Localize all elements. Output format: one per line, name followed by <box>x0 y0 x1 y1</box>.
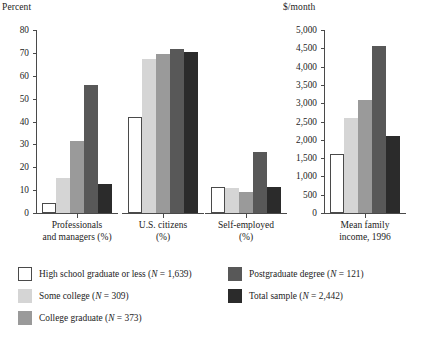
bar-high-school-graduate-or-less <box>128 117 142 213</box>
percent-chart-group-tick <box>246 214 247 218</box>
bar-postgraduate-degree <box>170 49 184 213</box>
legend-swatch-icon <box>228 289 242 303</box>
x-axis-group-label-line: income, 1996 <box>290 232 423 244</box>
bar-total-sample <box>267 187 281 213</box>
bar-total-sample <box>184 52 198 213</box>
legend-label-n-value: = 309) <box>102 291 129 301</box>
percent-chart-group-tick <box>163 214 164 218</box>
bar-total-sample <box>98 184 112 213</box>
percent-chart-panel: Percent 01020304050607080 Professionalsa… <box>0 0 282 258</box>
legend-label-n-value: = 121) <box>336 269 363 279</box>
bar-some-college <box>225 188 239 213</box>
bar-high-school-graduate-or-less <box>42 203 56 213</box>
legend-label-n-value: = 1,639) <box>157 269 191 279</box>
bar-high-school-graduate-or-less <box>211 187 225 213</box>
bar-college-graduate <box>358 100 372 213</box>
bar-total-sample <box>386 136 400 213</box>
legend-swatch-icon <box>18 311 32 325</box>
bar-college-graduate <box>239 192 253 213</box>
legend-label: High school graduate or less (N = 1,639) <box>39 266 192 282</box>
bar-some-college <box>344 118 358 213</box>
legend-label-n-value: = 2,442) <box>309 291 343 301</box>
legend-label-prefix: College graduate ( <box>39 313 108 323</box>
chart-legend: High school graduate or less (N = 1,639)… <box>0 258 423 348</box>
x-axis-group-label: Mean familyincome, 1996 <box>290 220 423 243</box>
legend-label-prefix: High school graduate or less ( <box>39 269 151 279</box>
bar-postgraduate-degree <box>372 46 386 213</box>
income-chart-group-tick <box>365 214 366 218</box>
legend-label: Postgraduate degree (N = 121) <box>249 266 364 282</box>
x-axis-group-label-line: Mean family <box>290 220 423 232</box>
figure-bar-charts: Percent 01020304050607080 Professionalsa… <box>0 0 423 348</box>
legend-label: Some college (N = 309) <box>39 288 129 304</box>
bar-college-graduate <box>70 141 84 213</box>
legend-label-prefix: Total sample ( <box>249 291 303 301</box>
legend-swatch-icon <box>228 267 242 281</box>
bar-some-college <box>56 178 70 213</box>
legend-label-n-value: = 373) <box>115 313 142 323</box>
bar-high-school-graduate-or-less <box>330 154 344 213</box>
legend-swatch-icon <box>18 267 32 281</box>
legend-label-prefix: Postgraduate degree ( <box>249 269 330 279</box>
legend-swatch-icon <box>18 289 32 303</box>
bar-college-graduate <box>156 54 170 213</box>
bar-postgraduate-degree <box>253 152 267 213</box>
bar-postgraduate-degree <box>84 85 98 213</box>
income-chart-panel: $/month 05001,0001,5002,0002,5003,0003,5… <box>282 0 423 258</box>
legend-label-prefix: Some college ( <box>39 291 95 301</box>
legend-label: Total sample (N = 2,442) <box>249 288 343 304</box>
percent-chart-group-tick <box>77 214 78 218</box>
legend-label: College graduate (N = 373) <box>39 310 142 326</box>
bar-some-college <box>142 59 156 213</box>
